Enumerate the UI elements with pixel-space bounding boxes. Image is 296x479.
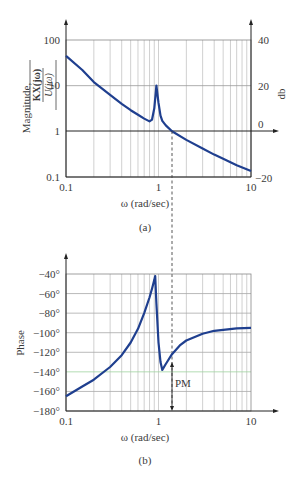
db-axis-arrow-icon: [249, 19, 253, 25]
db-axis-label: db: [275, 88, 287, 100]
phase-x-label: ω (rad/sec): [121, 431, 170, 444]
db-tick-40: 40: [258, 34, 270, 46]
x-tick-0.1: 0.1: [59, 181, 73, 193]
phase-y-tick: −180°: [33, 405, 60, 417]
x-tick-1: 1: [156, 181, 162, 193]
phase-x-tick-0.1: 0.1: [59, 415, 73, 427]
pm-arrow-up-icon: [170, 362, 174, 367]
magnitude-plot: 100 10 1 0.1 40 20 0 −20 db 0.1 1 10 ω (…: [20, 19, 287, 234]
phase-y-tick: −160°: [33, 385, 60, 397]
phase-y-tick: −60°: [38, 288, 60, 300]
phase-y-label: Phase: [14, 330, 26, 356]
phase-y-tick: −100°: [33, 327, 60, 339]
magnitude-fraction: KX(jω) U(jω): [30, 60, 56, 110]
y-tick-0.1: 0.1: [46, 171, 60, 183]
phase-x-tick-1: 1: [156, 415, 162, 427]
pm-label: PM: [175, 377, 191, 389]
caption-a: (a): [139, 221, 152, 234]
x-tick-10: 10: [246, 181, 258, 193]
phase-y-tick: −120°: [33, 346, 60, 358]
phase-x-tick-10: 10: [246, 415, 258, 427]
y-tick-1: 1: [55, 125, 61, 137]
caption-b: (b): [139, 454, 152, 467]
fraction-numerator: KX(jω): [31, 69, 43, 101]
bode-plot: 100 10 1 0.1 40 20 0 −20 db 0.1 1 10 ω (…: [0, 0, 296, 479]
db-tick-20: 20: [258, 80, 270, 92]
magnitude-x-label: ω (rad/sec): [121, 197, 170, 210]
phase-plot: PM −40°−60°−80°−100°−120°−140°−160°−180°…: [14, 253, 279, 467]
phase-y-ticks: −40°−60°−80°−100°−120°−140°−160°−180°: [33, 268, 60, 417]
db-tick-0: 0: [258, 118, 264, 130]
phase-y-tick: −80°: [38, 307, 60, 319]
phase-y-tick: −40°: [38, 268, 60, 280]
x-axis-arrow-icon: [273, 129, 279, 133]
phase-y-axis-arrow-icon: [64, 253, 68, 259]
phase-y-tick: −140°: [33, 366, 60, 378]
db-tick-minus20: −20: [255, 172, 273, 184]
pm-arrow-down-icon: [170, 406, 174, 411]
y-tick-100: 100: [44, 34, 61, 46]
fraction-denominator: U(jω): [43, 72, 55, 96]
phase-x-axis-arrow-icon: [273, 409, 279, 413]
y-axis-arrow-icon: [64, 19, 68, 25]
